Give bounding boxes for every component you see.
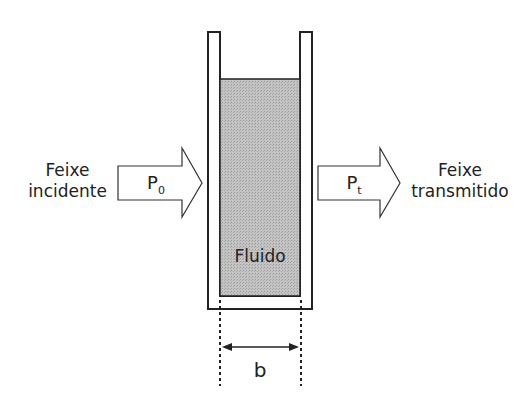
transmitted-beam-label: Feixe transmitido [400, 160, 520, 202]
transmitted-power-label: Pt [334, 172, 374, 201]
fluid-label: Fluido [220, 246, 300, 267]
dimension-arrowhead-right [289, 343, 299, 351]
incident-power-label: P0 [136, 172, 176, 201]
incident-beam-label: Feixe incidente [20, 160, 115, 202]
dimension-arrowhead-left [222, 343, 232, 351]
path-length-label: b [250, 360, 270, 381]
